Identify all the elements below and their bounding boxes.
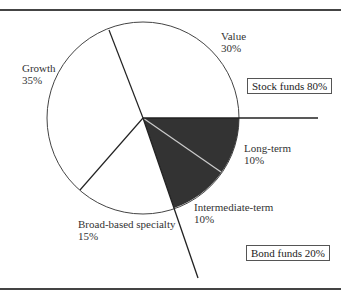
growth-label: Growth 35% [22, 62, 56, 86]
broad-based-name: Broad-based specialty [78, 218, 175, 230]
broad-based-label: Broad-based specialty 15% [78, 218, 175, 242]
bond-funds-box: Bond funds 20% [246, 245, 330, 261]
long-term-label: Long-term 10% [244, 142, 291, 166]
value-pct: 30% [221, 42, 246, 54]
growth-name: Growth [22, 62, 56, 74]
value-name: Value [221, 30, 246, 42]
pie-chart-figure: Value 30% Growth 35% Long-term 10% Inter… [0, 0, 341, 297]
stock-funds-box: Stock funds 80% [247, 78, 332, 94]
value-label: Value 30% [221, 30, 246, 54]
intermediate-term-label: Intermediate-term 10% [194, 201, 273, 225]
growth-pct: 35% [22, 74, 56, 86]
intermediate-term-pct: 10% [194, 213, 273, 225]
long-term-name: Long-term [244, 142, 291, 154]
long-term-pct: 10% [244, 154, 291, 166]
intermediate-term-name: Intermediate-term [194, 201, 273, 213]
broad-based-pct: 15% [78, 230, 175, 242]
